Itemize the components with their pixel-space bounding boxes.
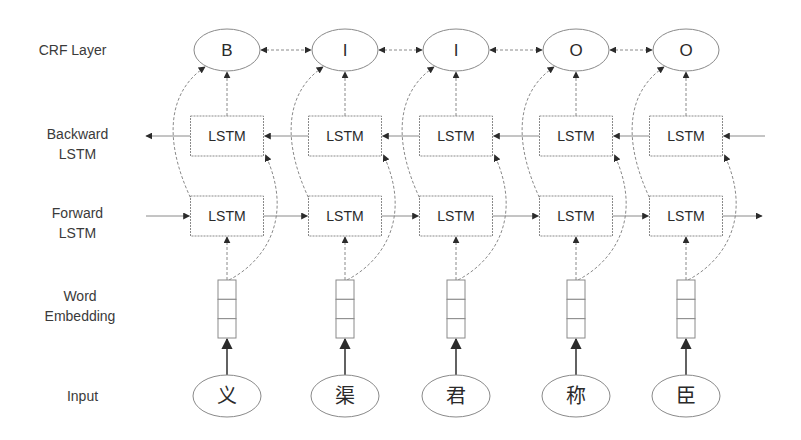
backward-lstm-label: LSTM (326, 128, 363, 144)
input-token-label: 臣 (676, 384, 696, 408)
embedding-cell (567, 299, 585, 318)
input-token-label: 称 (566, 384, 586, 408)
bilstm-crf-diagram: BLSTMLSTM义ILSTMLSTM渠ILSTMLSTM君OLSTMLSTM称… (0, 0, 801, 440)
crf-tag-label: O (679, 41, 692, 60)
backward-lstm-label: LSTM (667, 128, 704, 144)
embedding-cell (677, 319, 695, 338)
backward-lstm-label: LSTM (557, 128, 594, 144)
forward-lstm-label: LSTM (557, 208, 594, 224)
embedding-cell (336, 280, 354, 299)
crf-tag-label: I (454, 41, 459, 60)
embedding-cell (677, 299, 695, 318)
embedding-cell (218, 319, 236, 338)
embedding-cell (336, 319, 354, 338)
embedding-cell (218, 299, 236, 318)
embedding-cell (447, 319, 465, 338)
input-token-label: 君 (446, 384, 466, 408)
crf-tag-label: O (569, 41, 582, 60)
embedding-cell (218, 280, 236, 299)
forward-lstm-label: LSTM (208, 208, 245, 224)
forward-lstm-label: LSTM (326, 208, 363, 224)
embedding-cell (567, 280, 585, 299)
crf-tag-label: I (343, 41, 348, 60)
embedding-cell (336, 299, 354, 318)
input-token-label: 渠 (335, 384, 355, 408)
forward-lstm-label: LSTM (437, 208, 474, 224)
forward-lstm-label: LSTM (667, 208, 704, 224)
embedding-cell (567, 319, 585, 338)
crf-tag-label: B (221, 41, 232, 60)
backward-lstm-label: LSTM (437, 128, 474, 144)
embedding-cell (677, 280, 695, 299)
input-token-label: 义 (217, 384, 237, 408)
embedding-cell (447, 299, 465, 318)
backward-lstm-label: LSTM (208, 128, 245, 144)
embedding-cell (447, 280, 465, 299)
